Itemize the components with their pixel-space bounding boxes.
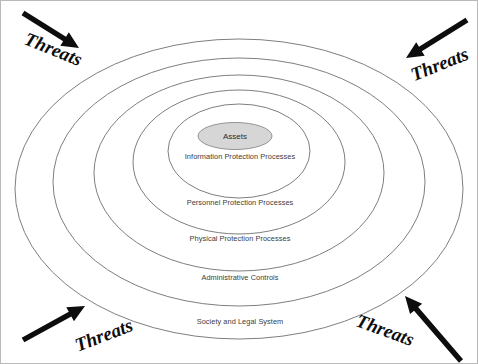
ring-label-personnel-protection-processes: Personnel Protection Processes	[187, 198, 294, 207]
threat-label-bottom-left: Threats	[72, 314, 136, 355]
ring-label-administrative-controls: Administrative Controls	[201, 273, 278, 282]
security-onion-diagram: Assets Information Protection Processes …	[1, 1, 478, 364]
ring-ellipse-administrative-controls	[53, 58, 425, 306]
threat-arrow-group	[22, 11, 469, 363]
threat-label-bottom-right: Threats	[353, 310, 417, 350]
ring-label-information-protection-processes: Information Protection Processes	[185, 152, 296, 161]
ring-ellipse-information-protection-processes	[168, 104, 310, 198]
core-assets-label: Assets	[223, 132, 247, 141]
diagram-canvas: Assets Information Protection Processes …	[0, 0, 478, 364]
ring-label-society-and-legal-system: Society and Legal System	[197, 317, 284, 326]
ring-group	[15, 39, 463, 339]
ring-ellipse-society-and-legal-system	[15, 39, 463, 339]
ring-label-physical-protection-processes: Physical Protection Processes	[190, 234, 291, 243]
ring-ellipse-personnel-protection-processes	[133, 90, 345, 234]
